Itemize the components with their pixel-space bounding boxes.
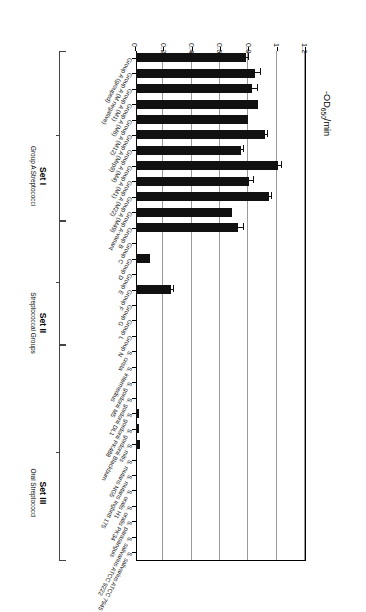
bar-row — [136, 254, 306, 263]
bar-row — [136, 177, 306, 186]
error-bar — [238, 227, 244, 228]
bar[interactable] — [136, 254, 150, 263]
bar-row — [136, 347, 306, 356]
error-bar — [247, 57, 250, 58]
x-axis-tick-label: 0.4 — [187, 43, 196, 53]
bar[interactable] — [136, 424, 139, 433]
bar-row — [136, 69, 306, 78]
bar-row — [136, 316, 306, 325]
bar[interactable] — [136, 208, 232, 217]
bar[interactable] — [136, 146, 241, 155]
error-bar — [171, 289, 174, 290]
bar-row — [136, 517, 306, 526]
bar-row — [136, 501, 306, 510]
bar-row — [136, 409, 306, 418]
set-title: Set I — [38, 91, 48, 261]
bar-row — [136, 208, 306, 217]
x-axis-tick — [277, 47, 278, 51]
set-bracket-3 — [59, 345, 66, 561]
set-heading-3: Set IIIOral Streptococci — [30, 385, 48, 601]
set-subtitle: Group A Streptococci — [30, 91, 37, 261]
x-axis-title: -OD650/min — [320, 91, 332, 136]
bar-row — [136, 548, 306, 557]
error-bar — [249, 180, 253, 181]
error-bar-cap — [257, 84, 258, 91]
bar-row — [136, 84, 306, 93]
bar-row — [136, 440, 306, 449]
set-subtitle: Streptococcal Groups — [30, 261, 37, 385]
bar-row — [136, 100, 306, 109]
bar-row — [136, 331, 306, 340]
x-axis-tick — [135, 47, 136, 51]
bar[interactable] — [136, 192, 269, 201]
error-bar — [255, 72, 261, 73]
bar[interactable] — [136, 84, 252, 93]
plot-area — [136, 51, 306, 561]
bar-row — [136, 161, 306, 170]
category-tick — [133, 429, 137, 430]
error-bar-cap — [248, 53, 249, 60]
set-bracket-2 — [59, 221, 66, 345]
set-heading-1: Set IGroup A Streptococci — [30, 91, 48, 261]
bar[interactable] — [136, 115, 248, 124]
bar-row — [136, 455, 306, 464]
bar-row — [136, 301, 306, 310]
error-bar — [241, 149, 244, 150]
x-axis-tick-label: 0.2 — [159, 43, 168, 53]
error-bar-cap — [267, 130, 268, 137]
x-axis-tick-label: 0.6 — [216, 43, 225, 53]
bar[interactable] — [136, 177, 249, 186]
bar[interactable] — [136, 161, 278, 170]
bar-row — [136, 270, 306, 279]
bar-row — [136, 192, 306, 201]
bar[interactable] — [136, 100, 258, 109]
bar-row — [136, 362, 306, 371]
error-bar — [265, 134, 268, 135]
error-bar-cap — [281, 161, 282, 168]
error-bar — [269, 196, 272, 197]
bar-row — [136, 53, 306, 62]
bar-row — [136, 115, 306, 124]
x-axis-tick-label: 0.8 — [244, 43, 253, 53]
bar[interactable] — [136, 440, 140, 449]
bar-row — [136, 486, 306, 495]
error-bar-cap — [260, 68, 261, 75]
category-tick — [133, 259, 137, 260]
set-title: Set III — [38, 385, 48, 601]
x-axis-tick-label: 1 — [272, 43, 281, 47]
bar[interactable] — [136, 409, 139, 418]
bar-row — [136, 378, 306, 387]
set-subtitle: Oral Streptococci — [30, 385, 37, 601]
bar-row — [136, 532, 306, 541]
error-bar-cap — [271, 192, 272, 199]
bar-row — [136, 393, 306, 402]
bar-row — [136, 146, 306, 155]
bar-row — [136, 131, 306, 140]
bar-row — [136, 424, 306, 433]
bar-row — [136, 239, 306, 248]
x-axis-tick-label: 0 — [131, 43, 140, 47]
category-tick — [133, 89, 137, 90]
bar[interactable] — [136, 285, 171, 294]
error-bar-cap — [243, 145, 244, 152]
error-bar-cap — [243, 223, 244, 230]
error-bar-cap — [253, 176, 254, 183]
error-bar-cap — [173, 285, 174, 292]
x-axis-tick-label: 1.2 — [301, 43, 310, 53]
category-tick — [133, 460, 137, 461]
set-title: Set II — [38, 261, 48, 385]
bar[interactable] — [136, 223, 238, 232]
error-bar — [278, 165, 282, 166]
category-tick — [133, 120, 137, 121]
bar-row — [136, 471, 306, 480]
bar[interactable] — [136, 69, 255, 78]
error-bar — [252, 88, 258, 89]
bar-row — [136, 285, 306, 294]
set-bracket-1 — [59, 51, 66, 221]
set-heading-2: Set IIStreptococcal Groups — [30, 261, 48, 385]
bar[interactable] — [136, 131, 265, 140]
category-tick — [133, 290, 137, 291]
bar[interactable] — [136, 53, 247, 62]
bar-row — [136, 223, 306, 232]
